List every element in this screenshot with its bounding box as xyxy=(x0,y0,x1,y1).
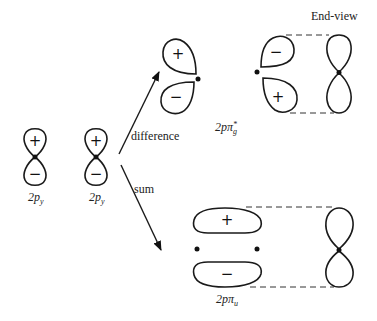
nucleus-node xyxy=(33,155,38,160)
minus-sign: − xyxy=(170,88,183,106)
nucleus-node xyxy=(255,70,260,75)
end-view-bottom-lobe xyxy=(326,251,353,287)
plus-sign: + xyxy=(90,132,103,150)
nucleus-node xyxy=(94,155,99,160)
orbital-label: 2py xyxy=(28,190,44,206)
antibonding-orbital: + − − + 2pπ*g xyxy=(161,35,351,136)
nucleus-node xyxy=(196,77,201,82)
difference-label: difference xyxy=(131,129,179,143)
orbital-label: 2py xyxy=(89,190,105,206)
plus-sign: + xyxy=(272,88,285,106)
end-view-top-lobe xyxy=(327,35,351,72)
nucleus-node-left xyxy=(195,247,200,252)
plus-sign: + xyxy=(29,132,42,150)
minus-sign: − xyxy=(90,165,103,183)
end-view-node xyxy=(337,70,342,75)
plus-sign: + xyxy=(172,45,185,63)
end-view-node xyxy=(337,248,342,253)
sum-arrow: sum xyxy=(121,165,161,250)
minus-sign: − xyxy=(29,165,42,183)
minus-sign: − xyxy=(221,265,234,283)
bonding-label: 2pπu xyxy=(216,292,238,308)
atomic-orbital-2: + − 2py xyxy=(85,129,107,206)
end-view-top-lobe xyxy=(326,208,353,249)
end-view-label: End-view xyxy=(311,9,358,23)
sum-label: sum xyxy=(134,182,155,196)
nucleus-node-right xyxy=(255,247,260,252)
bonding-orbital: + − 2pπu xyxy=(194,207,354,308)
plus-sign: + xyxy=(221,211,234,229)
atomic-orbital-1: + − 2py xyxy=(24,129,46,206)
minus-sign: − xyxy=(270,43,283,61)
antibonding-label: 2pπ*g xyxy=(215,120,237,136)
molecular-orbital-diagram: End-view + − 2py + − 2py difference sum … xyxy=(0,0,377,321)
end-view-bottom-lobe xyxy=(327,73,351,113)
